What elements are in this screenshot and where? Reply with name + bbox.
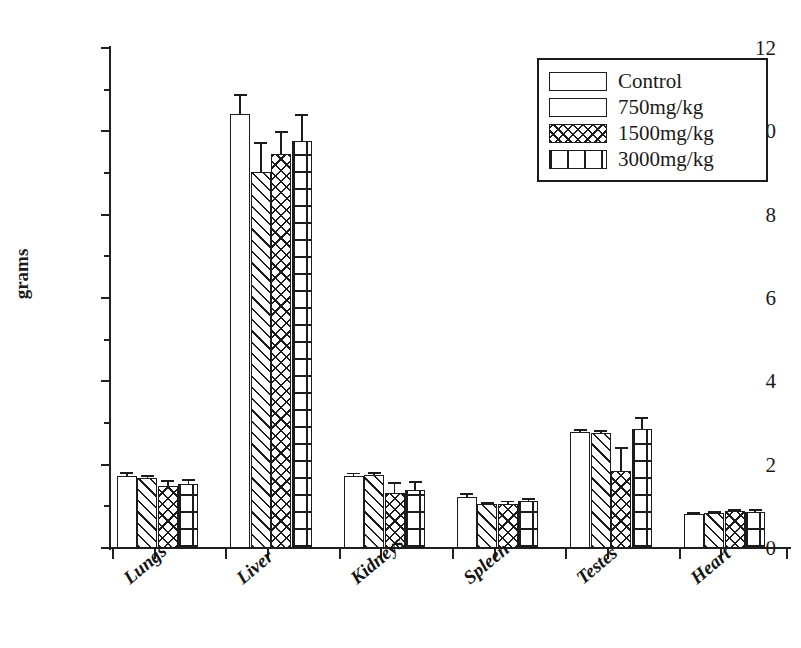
y-tick-major: [101, 130, 110, 132]
bar-group: [117, 48, 199, 548]
y-tick-minor: [104, 505, 110, 507]
y-tick-major: [101, 547, 110, 549]
bar-group: [344, 48, 426, 548]
y-tick-minor: [104, 422, 110, 424]
legend-item: 3000mg/kg: [549, 146, 756, 172]
y-tick-minor: [104, 89, 110, 91]
error-bar-stem: [620, 448, 622, 471]
bar: [745, 512, 765, 548]
error-bar-stem: [280, 132, 282, 154]
y-tick-label: 4: [766, 371, 777, 392]
bar: [684, 514, 704, 548]
bar: [364, 475, 384, 548]
y-tick-major: [101, 380, 110, 382]
error-bar-cap: [368, 472, 381, 474]
error-bar-cap: [295, 114, 308, 116]
error-bar: [292, 115, 312, 141]
y-tick-label: 8: [766, 204, 777, 225]
y-tick-major: [101, 47, 110, 49]
legend-item: 750mg/kg: [549, 94, 756, 120]
error-bar-cap: [409, 481, 422, 483]
bar-chart-figure: grams 024681012 LungsLiverKidneysSpleenT…: [0, 0, 801, 648]
error-bar-stem: [239, 95, 241, 114]
error-bar-cap: [347, 473, 360, 475]
y-tick-minor: [104, 339, 110, 341]
error-bar-cap: [234, 94, 247, 96]
error-bar: [385, 483, 405, 493]
bar: [117, 476, 137, 548]
error-bar-cap: [182, 479, 195, 481]
legend-item: Control: [549, 68, 756, 94]
bar: [178, 484, 198, 548]
error-bar-stem: [301, 115, 303, 141]
legend-item: 1500mg/kg: [549, 120, 756, 146]
y-tick-major: [101, 214, 110, 216]
y-tick-label: 2: [766, 454, 777, 475]
legend-label: 750mg/kg: [618, 97, 703, 118]
error-bar-cap: [120, 472, 133, 474]
bar: [518, 501, 538, 548]
error-bar: [632, 418, 652, 430]
error-bar-stem: [394, 483, 396, 493]
error-bar-cap: [635, 417, 648, 419]
y-tick-major: [101, 464, 110, 466]
error-bar-cap: [574, 429, 587, 431]
error-bar-stem: [641, 418, 643, 430]
x-category-label: Liver: [232, 546, 278, 589]
legend-label: 3000mg/kg: [618, 149, 714, 170]
bar: [158, 486, 178, 549]
error-bar-stem: [414, 482, 416, 490]
error-bar: [251, 143, 271, 172]
bar: [405, 490, 425, 548]
bar: [271, 154, 291, 548]
error-bar-cap: [275, 131, 288, 133]
bar: [611, 471, 631, 549]
error-bar-cap: [460, 493, 473, 495]
error-bar-cap: [522, 498, 535, 500]
error-bar: [611, 448, 631, 471]
legend-swatch: [549, 72, 607, 91]
bar: [570, 432, 590, 548]
bar-group: [230, 48, 312, 548]
x-tick: [452, 548, 454, 559]
y-axis-title: grams: [11, 249, 33, 300]
x-tick: [679, 548, 681, 559]
bar: [457, 497, 477, 548]
chart-legend: Control750mg/kg1500mg/kg3000mg/kg: [537, 58, 768, 182]
x-tick: [565, 548, 567, 559]
bar: [230, 114, 250, 548]
bar: [591, 433, 611, 548]
bar-group: [457, 48, 539, 548]
legend-swatch: [549, 124, 607, 143]
error-bar-cap: [615, 447, 628, 449]
error-bar-cap: [594, 430, 607, 432]
error-bar: [271, 132, 291, 154]
bar: [344, 476, 364, 548]
y-tick-label: 0: [766, 538, 777, 559]
error-bar-cap: [501, 501, 514, 503]
y-tick-minor: [104, 255, 110, 257]
error-bar-cap: [388, 482, 401, 484]
error-bar-cap: [161, 480, 174, 482]
x-tick: [339, 548, 341, 559]
legend-swatch: [549, 150, 607, 169]
x-category-label: Heart: [686, 543, 735, 589]
error-bar: [405, 482, 425, 490]
legend-label: 1500mg/kg: [618, 123, 714, 144]
bar: [137, 478, 157, 548]
error-bar: [230, 95, 250, 114]
x-tick: [225, 548, 227, 559]
error-bar-stem: [260, 143, 262, 172]
bar: [632, 429, 652, 548]
bar: [725, 511, 745, 548]
legend-label: Control: [618, 71, 682, 92]
y-tick-minor: [104, 172, 110, 174]
error-bar-cap: [141, 475, 154, 477]
bar: [251, 172, 271, 548]
x-tick: [112, 548, 114, 559]
bar: [292, 141, 312, 549]
y-tick-major: [101, 297, 110, 299]
legend-swatch: [549, 98, 607, 117]
x-tick: [786, 548, 788, 559]
y-tick-label: 6: [766, 288, 777, 309]
